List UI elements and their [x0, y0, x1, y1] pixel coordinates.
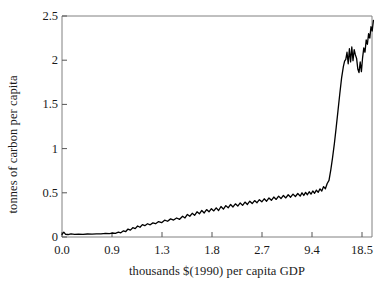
x-axis-label: thousands $(1990) per capita GDP: [62, 264, 372, 279]
y-axis-ticks: [62, 16, 67, 237]
plot-frame: [62, 16, 372, 237]
y-tick-label: 1.5: [30, 99, 58, 109]
y-tick-label: 2.5: [30, 11, 58, 21]
data-series-line: [62, 20, 373, 234]
x-tick-label: 1.3: [140, 243, 184, 258]
x-tick-label: 1.8: [190, 243, 234, 258]
x-tick-label: 9.4: [290, 243, 334, 258]
x-axis-ticks: [62, 232, 362, 237]
y-tick-label: 1: [30, 144, 58, 154]
x-tick-label: 0.0: [40, 243, 84, 258]
chart-figure: tonnes of carbon per capita 00.511.522.5…: [0, 0, 390, 289]
x-tick-label: 18.5: [340, 243, 384, 258]
axes-frame-box: [62, 16, 372, 237]
y-tick-label: 0.5: [30, 188, 58, 198]
y-tick-label: 0: [30, 232, 58, 242]
y-tick-label: 2: [30, 55, 58, 65]
x-tick-label: 2.7: [240, 243, 284, 258]
y-axis-label: tonnes of carbon per capita: [2, 0, 24, 289]
x-tick-label: 0.9: [90, 243, 134, 258]
y-axis-tick-labels: 00.511.522.5: [28, 0, 58, 240]
